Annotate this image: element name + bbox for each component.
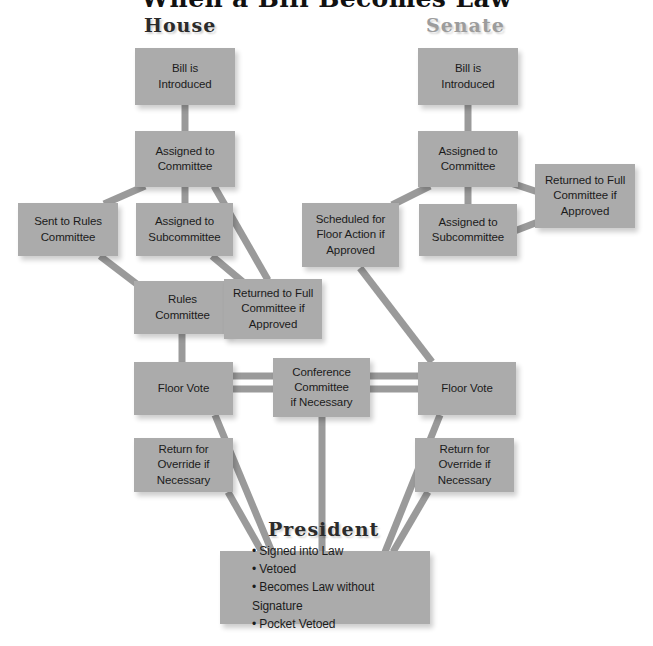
node-president-outcomes[interactable]: • Signed into Law • Vetoed • Becomes Law… [220, 551, 430, 624]
node-senate-assigned-committee[interactable]: Assigned to Committee [418, 131, 518, 187]
node-text-line: Floor Action if [316, 228, 384, 240]
node-text-line: Necessary [157, 474, 210, 486]
node-senate-bill-introduced[interactable]: Bill is Introduced [418, 48, 518, 105]
node-text: Assigned to Subcommittee [140, 214, 229, 244]
node-text-line: Return for [158, 443, 208, 455]
node-text-line: Committee if [241, 302, 304, 314]
node-text-line: Bill is [455, 62, 481, 74]
node-text: Bill is Introduced [422, 61, 514, 91]
node-text-line: Committee [441, 160, 496, 172]
node-text-line: Override if [439, 458, 491, 470]
node-text-line: • Signed into Law [252, 544, 343, 558]
node-text-line: Assigned to [156, 145, 215, 157]
node-text: • Signed into Law • Vetoed • Becomes Law… [252, 542, 426, 633]
node-text-line: Committee [294, 381, 349, 393]
node-text-line: Necessary [438, 474, 491, 486]
node-conference-committee[interactable]: Conference Committee if Necessary [273, 358, 370, 417]
node-text: Assigned to Subcommittee [423, 215, 513, 245]
node-text-line: if Necessary [290, 396, 352, 408]
node-senate-assigned-subcommittee[interactable]: Assigned to Subcommittee [419, 204, 517, 256]
node-house-assigned-committee[interactable]: Assigned to Committee [135, 131, 235, 187]
node-text: Sent to Rules Committee [22, 214, 114, 244]
node-senate-returned-to-full-committee[interactable]: Returned to Full Committee if Approved [535, 164, 635, 228]
node-text: Return for Override if Necessary [419, 442, 510, 488]
node-senate-scheduled-for-floor-action[interactable]: Scheduled for Floor Action if Approved [302, 203, 399, 267]
node-text-line: Sent to Rules [34, 215, 102, 227]
node-text: Conference Committee if Necessary [277, 365, 366, 411]
node-text-line: • Vetoed [252, 562, 296, 576]
node-text-line: Returned to Full [545, 174, 625, 186]
node-text-line: Approved [326, 244, 374, 256]
node-text-line: Introduced [441, 78, 494, 90]
node-senate-floor-vote[interactable]: Floor Vote [418, 362, 516, 415]
heading-senate: Senate [426, 14, 505, 36]
flowchart-canvas: When a Bill Becomes Law [0, 0, 653, 646]
node-text: Floor Vote [138, 381, 229, 396]
node-text-line: • Pocket Vetoed [252, 617, 335, 631]
node-house-sent-to-rules-committee[interactable]: Sent to Rules Committee [18, 203, 118, 256]
node-text-line: Assigned to [439, 145, 498, 157]
node-house-bill-introduced[interactable]: Bill is Introduced [135, 48, 235, 105]
node-text-line: Rules [168, 293, 197, 305]
node-text-line: Approved [561, 205, 609, 217]
node-text-line: • Becomes Law without Signature [252, 580, 374, 612]
heading-president: President [268, 518, 379, 540]
node-senate-return-for-override[interactable]: Return for Override if Necessary [415, 438, 514, 492]
node-text-line: Override if [158, 458, 210, 470]
node-text: Returned to Full Committee if Approved [539, 173, 631, 219]
node-text-line: Committee if [553, 189, 616, 201]
node-text-line: Scheduled for [316, 213, 386, 225]
node-text-line: Committee [158, 160, 213, 172]
heading-house: House [144, 14, 216, 36]
node-text-line: Introduced [158, 78, 211, 90]
node-text-line: Conference [292, 366, 350, 378]
node-text: Return for Override if Necessary [138, 442, 229, 488]
node-text-line: Bill is [172, 62, 198, 74]
node-text: Assigned to Committee [422, 144, 514, 174]
node-text-line: Assigned to [439, 216, 498, 228]
node-text: Floor Vote [422, 381, 512, 396]
node-house-return-for-override[interactable]: Return for Override if Necessary [134, 438, 233, 492]
node-text: Bill is Introduced [139, 61, 231, 91]
node-text-line: Subcommittee [148, 231, 220, 243]
node-text-line: Subcommittee [432, 231, 504, 243]
node-text-line: Committee [41, 231, 96, 243]
node-house-floor-vote[interactable]: Floor Vote [134, 362, 233, 415]
node-house-assigned-subcommittee[interactable]: Assigned to Subcommittee [136, 203, 233, 256]
node-text: Assigned to Committee [139, 144, 231, 174]
node-house-returned-to-full-committee[interactable]: Returned to Full Committee if Approved [224, 279, 322, 339]
node-text: Returned to Full Committee if Approved [228, 286, 318, 332]
node-text-line: Floor Vote [441, 382, 492, 394]
node-text: Scheduled for Floor Action if Approved [306, 212, 395, 258]
node-text-line: Returned to Full [233, 287, 313, 299]
node-text: Rules Committee [138, 292, 227, 322]
chart-title: When a Bill Becomes Law [0, 0, 653, 13]
node-house-rules-committee[interactable]: Rules Committee [134, 281, 231, 334]
node-text-line: Floor Vote [158, 382, 209, 394]
node-text-line: Approved [249, 318, 297, 330]
node-text-line: Committee [155, 309, 210, 321]
node-text-line: Assigned to [155, 215, 214, 227]
node-text-line: Return for [439, 443, 489, 455]
